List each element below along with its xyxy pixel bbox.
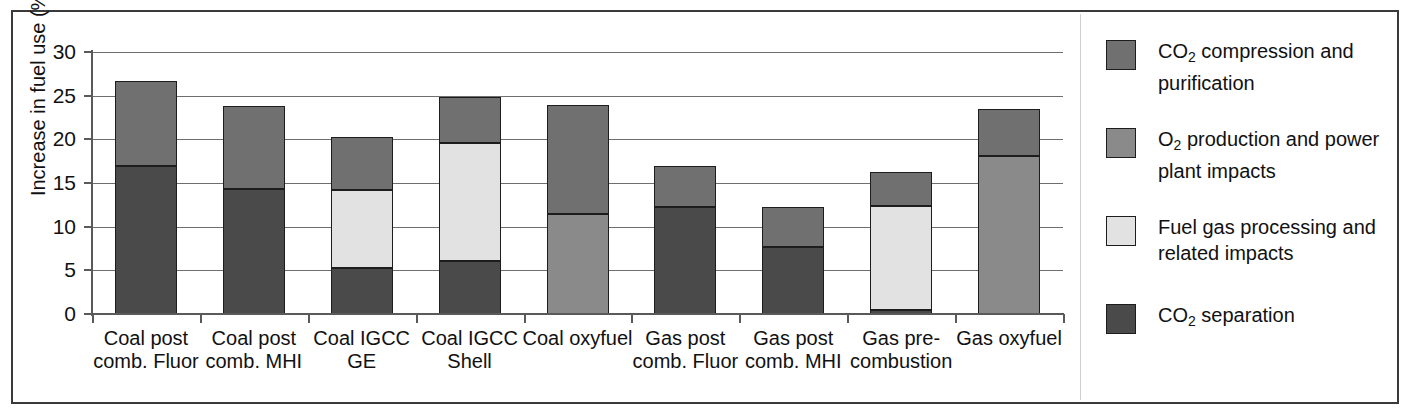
legend-subscript: 2 [1188, 313, 1196, 329]
x-category-label-line: combustion [833, 350, 969, 373]
legend-label-line-2: related impacts [1158, 240, 1396, 266]
legend-label-line-1: O2 production and power [1158, 126, 1396, 158]
x-tick-mark [524, 314, 526, 323]
legend-label-fuel-gas-processing-and-related-impacts: Fuel gas processing andrelated impacts [1158, 214, 1396, 266]
x-tick-mark [92, 314, 94, 323]
bar-segment-co2-compression[interactable] [654, 166, 716, 207]
bar-gas-post-comb-mhi[interactable] [762, 52, 824, 314]
y-tick-label: 15 [30, 172, 76, 193]
bar-gas-pre-combustion[interactable] [870, 52, 932, 314]
bar-segment-fuel-gas-processing[interactable] [439, 143, 501, 261]
y-tick-label: 25 [30, 85, 76, 106]
y-tick-label: 5 [30, 259, 76, 280]
x-tick-mark [631, 314, 633, 323]
legend-swatch-o2-production-and-power-plant-impacts [1106, 128, 1136, 158]
y-tick-label: 10 [30, 216, 76, 237]
x-tick-mark [955, 314, 957, 323]
legend-item-co2-compression-and-purification[interactable]: CO2 compression andpurification [1106, 38, 1396, 102]
legend-item-co2-separation[interactable]: CO2 separation [1106, 302, 1396, 366]
bar-segment-co2-compression[interactable] [439, 97, 501, 143]
legend-subscript: 2 [1188, 49, 1196, 65]
legend-swatch-co2-separation [1106, 304, 1136, 334]
bar-segment-co2-separation[interactable] [654, 207, 716, 314]
x-tick-mark [847, 314, 849, 323]
bar-segment-o2-production[interactable] [547, 214, 609, 314]
y-tick-label: 0 [30, 303, 76, 324]
bar-segment-o2-production[interactable] [978, 156, 1040, 314]
legend-swatch-fuel-gas-processing-and-related-impacts [1106, 216, 1136, 246]
x-category-label: Gas oxyfuel [941, 327, 1077, 350]
legend-label-line-1: CO2 separation [1158, 302, 1396, 334]
x-category-label-line: Shell [402, 350, 538, 373]
legend-label-line-2: purification [1158, 70, 1396, 96]
bar-segment-co2-compression[interactable] [223, 106, 285, 189]
x-tick-mark [308, 314, 310, 323]
x-category-label-line: Gas oxyfuel [941, 327, 1077, 350]
legend-label-line-2: plant impacts [1158, 158, 1396, 184]
legend-swatch-co2-compression-and-purification [1106, 40, 1136, 70]
bar-segment-co2-separation[interactable] [223, 189, 285, 314]
bar-coal-oxyfuel[interactable] [547, 52, 609, 314]
chart-figure: Increase in fuel use (%) 051015202530 Co… [0, 0, 1411, 417]
y-tick-label: 20 [30, 128, 76, 149]
bar-segment-co2-separation[interactable] [439, 261, 501, 314]
gridlines-and-bars [92, 52, 1063, 314]
bar-coal-post-comb-fluor[interactable] [115, 52, 177, 314]
bar-gas-oxyfuel[interactable] [978, 52, 1040, 314]
bar-segment-co2-compression[interactable] [331, 137, 393, 190]
legend-label-co2-separation: CO2 separation [1158, 302, 1396, 334]
y-axis-line [91, 50, 93, 316]
legend-divider [1080, 14, 1081, 400]
legend-label-line-1: Fuel gas processing and [1158, 214, 1396, 240]
bar-coal-post-comb-mhi[interactable] [223, 52, 285, 314]
bar-coal-igcc-ge[interactable] [331, 52, 393, 314]
bar-segment-fuel-gas-processing[interactable] [870, 206, 932, 310]
legend-item-fuel-gas-processing-and-related-impacts[interactable]: Fuel gas processing andrelated impacts [1106, 214, 1396, 278]
bar-segment-co2-separation[interactable] [115, 166, 177, 314]
x-tick-mark [416, 314, 418, 323]
legend-label-o2-production-and-power-plant-impacts: O2 production and powerplant impacts [1158, 126, 1396, 184]
x-tick-mark [200, 314, 202, 323]
bar-segment-co2-compression[interactable] [978, 109, 1040, 156]
legend-item-o2-production-and-power-plant-impacts[interactable]: O2 production and powerplant impacts [1106, 126, 1396, 190]
legend-label-line-1: CO2 compression and [1158, 38, 1396, 70]
legend-label-co2-compression-and-purification: CO2 compression andpurification [1158, 38, 1396, 96]
bar-segment-co2-compression[interactable] [115, 81, 177, 167]
x-axis-line [91, 313, 1064, 315]
bar-segment-co2-compression[interactable] [547, 105, 609, 214]
y-tick-label: 30 [30, 41, 76, 62]
bar-segment-fuel-gas-processing[interactable] [331, 190, 393, 268]
bar-segment-co2-compression[interactable] [762, 207, 824, 246]
chart-legend: CO2 compression andpurificationO2 produc… [1106, 38, 1396, 390]
bar-gas-post-comb-fluor[interactable] [654, 52, 716, 314]
bar-coal-igcc-shell[interactable] [439, 52, 501, 314]
bar-segment-co2-separation[interactable] [762, 247, 824, 314]
bar-segment-co2-compression[interactable] [870, 172, 932, 206]
legend-subscript: 2 [1174, 137, 1182, 153]
bar-segment-co2-separation[interactable] [331, 268, 393, 314]
x-tick-mark [739, 314, 741, 323]
x-tick-mark [1063, 314, 1065, 323]
